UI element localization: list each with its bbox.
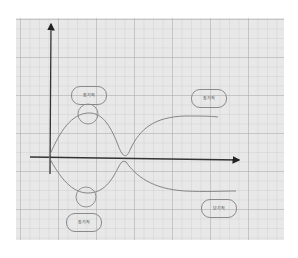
label-top-right-text: 장기적: [203, 97, 215, 101]
label-bottom-right: 단기적: [201, 199, 237, 218]
trough-circle: [76, 187, 96, 207]
label-top-left-text: 장기적: [83, 94, 95, 98]
label-bottom-left: 장기적: [66, 213, 102, 232]
x-axis: [30, 157, 239, 160]
rising-curve: [49, 113, 218, 157]
diagram-canvas: [0, 0, 298, 258]
falling-curve: [49, 157, 236, 193]
label-top-left: 장기적: [71, 86, 107, 105]
label-bottom-left-text: 장기적: [78, 221, 90, 225]
label-top-right: 장기적: [191, 89, 227, 108]
label-bottom-right-text: 단기적: [213, 207, 225, 211]
